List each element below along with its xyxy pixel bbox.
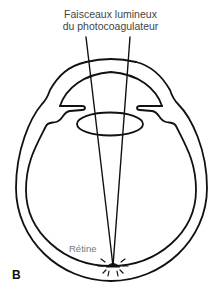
iris-left	[26, 106, 111, 266]
panel-letter: B	[12, 268, 21, 282]
cornea-inner	[60, 72, 162, 106]
retina-label: Rétine	[69, 243, 96, 254]
eye-diagram	[0, 0, 221, 295]
light-beam-right	[113, 37, 130, 266]
sclera-outer-left	[16, 62, 111, 281]
lens	[77, 113, 143, 136]
